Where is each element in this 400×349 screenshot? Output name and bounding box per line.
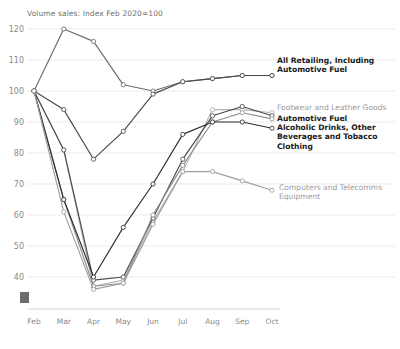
data-point-marker xyxy=(240,120,244,124)
x-axis-tick-label: Sep xyxy=(227,317,257,326)
label-clothing: Clothing xyxy=(277,142,313,151)
data-point-marker xyxy=(270,117,274,121)
data-point-marker xyxy=(181,163,185,167)
data-point-marker xyxy=(210,77,214,81)
data-point-marker xyxy=(62,108,66,112)
y-axis-tick-label: 70 xyxy=(0,180,24,189)
y-axis-tick-label: 100 xyxy=(0,87,24,96)
data-point-marker xyxy=(240,73,244,77)
label-all-retailing-line1: All Retailing, Including xyxy=(277,56,374,65)
series-group xyxy=(32,27,274,292)
data-point-marker xyxy=(151,213,155,217)
data-point-marker xyxy=(181,132,185,136)
data-point-marker xyxy=(32,89,36,93)
data-point-marker xyxy=(151,182,155,186)
line-chart: Volume sales: Index Feb 2020=100 4050607… xyxy=(0,0,400,349)
x-axis-tick-label: Feb xyxy=(19,317,49,326)
y-axis-tick-label: 80 xyxy=(0,149,24,158)
label-computers: Computers and TelecommsEquipment xyxy=(279,183,382,201)
data-point-marker xyxy=(121,129,125,133)
data-point-marker xyxy=(62,148,66,152)
series-line xyxy=(34,76,272,160)
data-point-marker xyxy=(91,39,95,43)
data-point-marker xyxy=(270,73,274,77)
label-all-retailing-line2: Automotive Fuel xyxy=(277,65,347,74)
y-axis-tick-label: 40 xyxy=(0,273,24,282)
x-axis-tick-label: Apr xyxy=(79,317,109,326)
y-axis-tick-label: 90 xyxy=(0,118,24,127)
data-point-marker xyxy=(91,275,95,279)
data-point-marker xyxy=(210,170,214,174)
plot-area xyxy=(0,0,400,349)
y-axis-tick-label: 60 xyxy=(0,211,24,220)
data-point-marker xyxy=(210,114,214,118)
y-axis-tick-label: 50 xyxy=(0,242,24,251)
label-automotive-fuel: Automotive Fuel xyxy=(277,114,347,123)
data-point-marker xyxy=(181,170,185,174)
data-point-marker xyxy=(91,157,95,161)
data-point-marker xyxy=(270,126,274,130)
label-computers-line1: Computers and Telecomms xyxy=(279,183,382,192)
x-axis-tick-label: May xyxy=(108,317,138,326)
label-alcoholic-drinks-line1: Alcoholic Drinks, Other xyxy=(277,123,376,132)
label-alcoholic-drinks-line2: Beverages and Tobacco xyxy=(277,132,377,141)
x-axis-tick-label: Aug xyxy=(198,317,228,326)
data-point-marker xyxy=(91,287,95,291)
data-point-marker xyxy=(62,27,66,31)
data-point-marker xyxy=(121,281,125,285)
x-axis-tick-label: Oct xyxy=(257,317,287,326)
data-point-marker xyxy=(181,80,185,84)
legend-marker-square xyxy=(20,292,29,303)
label-footwear: Footwear and Leather Goods xyxy=(277,103,387,112)
data-point-marker xyxy=(62,197,66,201)
x-axis-tick-label: Jul xyxy=(168,317,198,326)
series-6 xyxy=(32,89,274,292)
series-line xyxy=(34,91,272,289)
data-point-marker xyxy=(240,179,244,183)
data-point-marker xyxy=(151,92,155,96)
label-all-retailing: All Retailing, IncludingAutomotive Fuel xyxy=(277,56,374,74)
data-point-marker xyxy=(151,222,155,226)
y-axis-tick-label: 110 xyxy=(0,56,24,65)
series-4 xyxy=(32,89,274,289)
x-axis-tick-label: Jun xyxy=(138,317,168,326)
data-point-marker xyxy=(240,104,244,108)
data-point-marker xyxy=(210,120,214,124)
label-alcoholic-drinks: Alcoholic Drinks, OtherBeverages and Tob… xyxy=(277,123,377,141)
data-point-marker xyxy=(240,111,244,115)
data-point-marker xyxy=(121,83,125,87)
y-axis-tick-label: 120 xyxy=(0,25,24,34)
x-axis-tick-label: Mar xyxy=(49,317,79,326)
label-computers-line2: Equipment xyxy=(279,192,320,201)
data-point-marker xyxy=(62,210,66,214)
series-2 xyxy=(32,89,274,289)
data-point-marker xyxy=(121,225,125,229)
data-point-marker xyxy=(210,108,214,112)
series-1 xyxy=(32,73,274,161)
data-point-marker xyxy=(270,188,274,192)
data-point-marker xyxy=(181,157,185,161)
